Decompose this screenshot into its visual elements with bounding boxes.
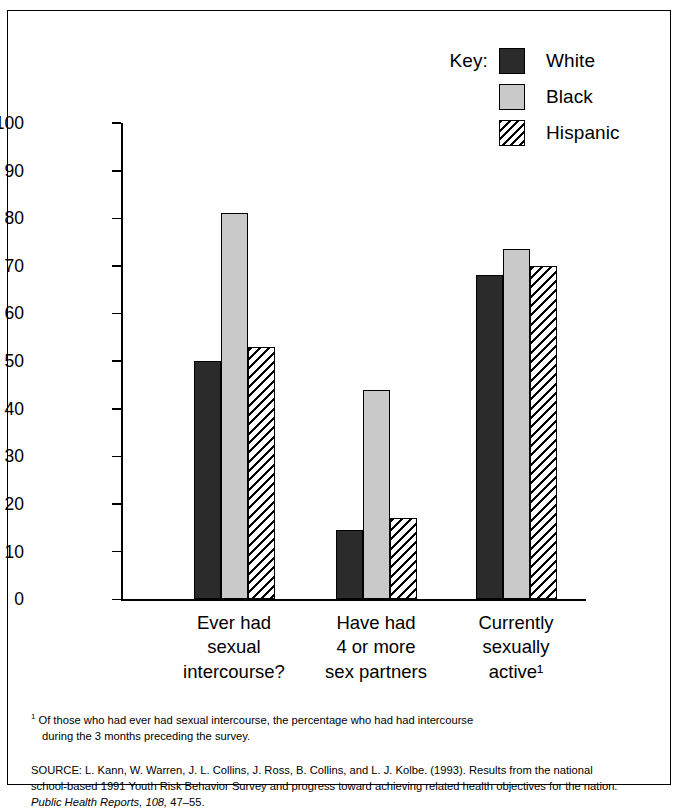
- category-label: Currentlysexuallyactive¹: [421, 611, 611, 684]
- y-tick-label: 0: [0, 591, 24, 609]
- bar-black: [503, 249, 530, 599]
- bar-white: [194, 361, 221, 599]
- source-text-post: 47–55.: [167, 796, 204, 808]
- y-tick-label: 70: [0, 258, 24, 276]
- y-axis-line: [121, 123, 123, 601]
- footnote: 1Of those who had ever had sexual interc…: [31, 711, 631, 745]
- source-citation: SOURCE: L. Kann, W. Warren, J. L. Collin…: [31, 762, 631, 810]
- bar-chart: 0102030405060708090100 Ever hadsexualint…: [8, 11, 672, 786]
- source-text-pre: SOURCE: L. Kann, W. Warren, J. L. Collin…: [31, 764, 617, 792]
- bar-white: [336, 530, 363, 599]
- y-tick-mark: [112, 218, 121, 220]
- y-tick-label: 50: [0, 353, 24, 371]
- bar-hispanic: [390, 518, 417, 599]
- y-tick-label: 30: [0, 448, 24, 466]
- bar-black: [221, 213, 248, 599]
- y-tick-label: 80: [0, 210, 24, 228]
- y-tick-label: 90: [0, 163, 24, 181]
- y-tick-mark: [112, 503, 121, 505]
- footnote-line-1: Of those who had ever had sexual interco…: [38, 714, 473, 726]
- bar-hispanic: [530, 266, 557, 599]
- source-journal: Public Health Reports, 108,: [31, 796, 167, 808]
- y-tick-mark: [112, 599, 121, 601]
- y-tick-mark: [112, 122, 121, 124]
- figure-panel: Key: White Black Hispanic 01020304050607…: [7, 10, 671, 785]
- notes-block: 1Of those who had ever had sexual interc…: [31, 711, 631, 810]
- y-tick-label: 100: [0, 115, 24, 133]
- category-label-line: Currently: [421, 611, 611, 635]
- y-tick-mark: [112, 265, 121, 267]
- y-tick-mark: [112, 456, 121, 458]
- y-tick-label: 10: [0, 544, 24, 562]
- footnote-line-2: during the 3 months preceding the survey…: [31, 729, 631, 745]
- y-tick-mark: [112, 551, 121, 553]
- y-tick-mark: [112, 408, 121, 410]
- x-axis-line: [121, 599, 586, 601]
- y-tick-mark: [112, 360, 121, 362]
- bar-black: [363, 390, 390, 600]
- y-tick-mark: [112, 170, 121, 172]
- category-label-line: sexually: [421, 635, 611, 659]
- y-tick-label: 60: [0, 305, 24, 323]
- footnote-marker: 1: [31, 712, 35, 721]
- plot-area: [121, 123, 586, 601]
- y-tick-label: 40: [0, 401, 24, 419]
- bar-hispanic: [248, 347, 275, 599]
- y-tick-mark: [112, 313, 121, 315]
- bar-white: [476, 275, 503, 599]
- y-tick-label: 20: [0, 496, 24, 514]
- category-label-line: active¹: [421, 660, 611, 684]
